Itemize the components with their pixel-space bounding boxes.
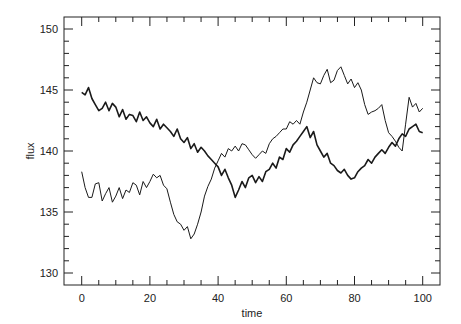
x-axis-label: time (242, 307, 263, 319)
x-tick-label: 100 (414, 292, 432, 304)
x-axis: 020406080100 (79, 17, 432, 304)
y-axis-label: flux (24, 142, 36, 160)
x-tick-label: 20 (144, 292, 156, 304)
x-tick-label: 40 (212, 292, 224, 304)
x-tick-label: 0 (79, 292, 85, 304)
y-tick-label: 135 (40, 206, 58, 218)
series-layer (82, 67, 423, 239)
series-line-1 (82, 88, 423, 198)
y-tick-label: 150 (40, 23, 58, 35)
x-tick-label: 60 (280, 292, 292, 304)
y-tick-label: 130 (40, 267, 58, 279)
y-tick-label: 140 (40, 145, 58, 157)
series-line-2 (82, 67, 423, 239)
line-chart: 130135140145150 020406080100 time flux (0, 0, 461, 324)
x-tick-label: 80 (348, 292, 360, 304)
y-tick-label: 145 (40, 84, 58, 96)
